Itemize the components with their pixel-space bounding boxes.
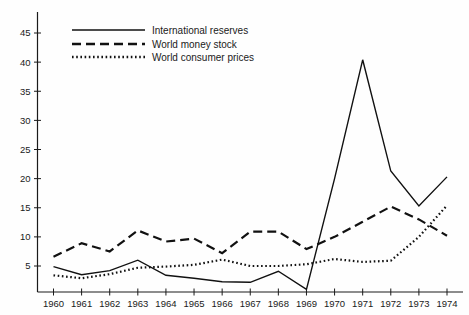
- series-line-dashed: [54, 207, 448, 257]
- y-tick-label: 45: [20, 27, 31, 38]
- x-tick-label: 1970: [324, 298, 345, 309]
- x-tick-label: 1962: [99, 298, 120, 309]
- line-chart: 51015202530354045 1960196119621963196419…: [0, 0, 469, 315]
- y-tick-label: 5: [25, 260, 30, 271]
- series-line-solid: [54, 60, 448, 290]
- series-layer: [54, 60, 448, 290]
- y-tick-label: 20: [20, 173, 31, 184]
- x-tick-label: 1972: [380, 298, 401, 309]
- y-axis: 51015202530354045: [20, 12, 41, 292]
- y-tick-label: 30: [20, 115, 31, 126]
- chart-legend: International reservesWorld money stockW…: [72, 25, 254, 63]
- legend-label: World money stock: [152, 39, 238, 50]
- y-tick-label: 10: [20, 231, 31, 242]
- x-tick-label: 1960: [43, 298, 64, 309]
- x-tick-label: 1966: [212, 298, 233, 309]
- x-tick-label: 1961: [71, 298, 92, 309]
- x-tick-label: 1967: [240, 298, 261, 309]
- x-tick-label: 1965: [183, 298, 204, 309]
- y-tick-label: 15: [20, 202, 31, 213]
- x-tick-label: 1963: [127, 298, 148, 309]
- x-tick-label: 1964: [155, 298, 176, 309]
- chart-container: 51015202530354045 1960196119621963196419…: [0, 0, 469, 315]
- x-tick-label: 1969: [296, 298, 317, 309]
- x-tick-label: 1974: [436, 298, 457, 309]
- series-line-dotted: [54, 205, 448, 278]
- y-tick-label: 35: [20, 86, 31, 97]
- x-tick-label: 1973: [408, 298, 429, 309]
- y-tick-label: 25: [20, 144, 31, 155]
- y-tick-label: 40: [20, 57, 31, 68]
- legend-label: International reserves: [152, 25, 248, 36]
- x-axis: 1960196119621963196419651966196719681969…: [38, 289, 464, 310]
- legend-label: World consumer prices: [152, 52, 254, 63]
- x-tick-label: 1971: [352, 298, 373, 309]
- x-tick-label: 1968: [268, 298, 289, 309]
